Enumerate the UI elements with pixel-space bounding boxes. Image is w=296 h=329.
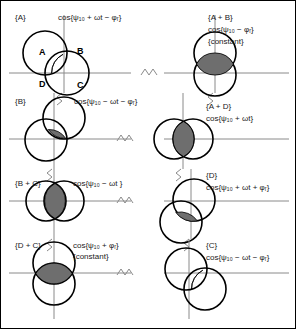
quadrant-label-d: D bbox=[39, 79, 46, 89]
overlap-lens bbox=[197, 53, 234, 75]
panel-d-plus-c-expression: cos{ψ₁₀ + φᵣ} bbox=[73, 241, 119, 251]
quadrant-label-b: B bbox=[77, 46, 84, 56]
quadrant-label-c: C bbox=[77, 80, 84, 90]
panel-b-group-label: {B} bbox=[15, 97, 26, 107]
panel-b-expression: cos{ψ₁₀ − ωt − φᵣ} bbox=[74, 97, 137, 107]
panel-d-plus-c-group-label: {D + C} bbox=[15, 241, 41, 251]
panel-d-group-label: {D} bbox=[206, 171, 217, 181]
overlap-lens bbox=[173, 121, 194, 156]
panel-d-expression: cos{ψ₁₀ + ωt + φᵣ} bbox=[206, 183, 269, 193]
axis-break-icon bbox=[117, 269, 133, 275]
axis-break-icon bbox=[47, 239, 52, 251]
axis-break-icon bbox=[184, 239, 189, 251]
row-2-axes bbox=[9, 93, 289, 181]
panel-b-plus-c-expression: cos{ψ₁₀ − ωt } bbox=[73, 179, 122, 189]
panel-c-group-label: {C} bbox=[206, 241, 217, 251]
quadrant-label-a: A bbox=[39, 47, 46, 57]
panel-b-circles bbox=[25, 97, 85, 161]
panel-a-plus-b-expression: cos{ψ₁₀ − φᵣ} bbox=[208, 25, 254, 35]
axis-break-icon bbox=[117, 135, 133, 141]
figure-container: {A} cos{ψ₁₀ + ωt − φᵣ} A B D C {A + B} c… bbox=[0, 0, 296, 329]
overlap-lens bbox=[36, 263, 72, 284]
panel-c-expression: cos{ψ₁₀ − ωt − φᵣ} bbox=[206, 253, 269, 263]
axis-break-icon bbox=[176, 169, 181, 181]
panel-a-group-label: {A} bbox=[15, 13, 26, 23]
axis-break-icon bbox=[117, 197, 133, 203]
panel-d-plus-c-note: {constant} bbox=[73, 252, 109, 262]
overlap-lens bbox=[176, 212, 198, 221]
panel-a-plus-d-expression: cos{ψ₁₀ + ωt} bbox=[206, 114, 253, 124]
axis-break-icon bbox=[47, 169, 52, 181]
panel-a-plus-d-group-label: {A + D} bbox=[206, 102, 231, 112]
panel-a-expression: cos{ψ₁₀ + ωt − φᵣ} bbox=[58, 13, 121, 23]
panel-a-plus-b-note: {constant} bbox=[208, 37, 244, 47]
panel-b-plus-c-group-label: {B + C} bbox=[15, 179, 41, 189]
panel-a-plus-b-group-label: {A + B} bbox=[208, 13, 233, 23]
axis-break-icon bbox=[141, 69, 157, 75]
